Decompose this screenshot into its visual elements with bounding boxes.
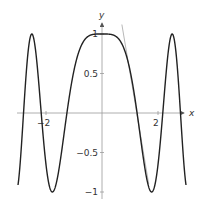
axes: x y −22 10.5−0.5−1 (17, 10, 195, 199)
chart: x y −22 10.5−0.5−1 (0, 0, 201, 211)
y-tick-label: 0.5 (84, 69, 98, 79)
x-axis-label: x (188, 108, 195, 118)
x-tick-label: 2 (153, 118, 159, 128)
y-tick-label: −0.5 (76, 148, 98, 158)
x-tick-label: −2 (37, 118, 50, 128)
y-tick-label: −1 (85, 187, 98, 197)
y-axis-label: y (98, 10, 105, 20)
x-ticks: −22 (37, 111, 159, 128)
